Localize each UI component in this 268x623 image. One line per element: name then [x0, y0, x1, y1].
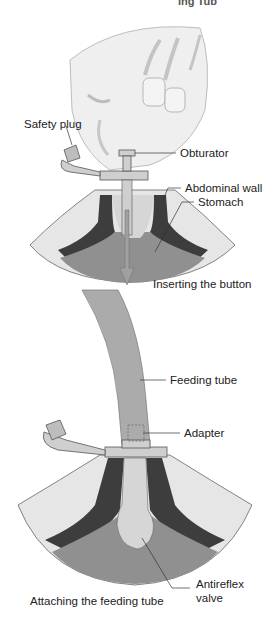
attaching-feeding-tube-illustration — [0, 0, 268, 623]
diagram-canvas: ing Tub — [0, 0, 268, 623]
label-antireflex-valve-line1: Antireflex — [196, 578, 244, 591]
label-feeding-tube: Feeding tube — [170, 374, 237, 387]
caption-attaching-feeding-tube: Attaching the feeding tube — [30, 595, 164, 608]
feeding-tube-shape — [82, 290, 150, 445]
abdomen-cross-section-2 — [18, 455, 252, 585]
label-adapter: Adapter — [184, 427, 224, 440]
label-antireflex-valve-line2: valve — [196, 592, 223, 605]
